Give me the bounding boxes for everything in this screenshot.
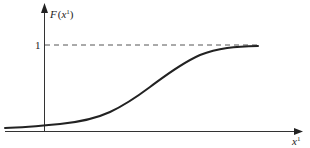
x-axis: [5, 128, 303, 135]
cdf-curve: [5, 46, 258, 128]
y-axis-label: F(x1): [49, 8, 74, 21]
y-axis: [41, 3, 48, 132]
cdf-chart: F(x1) 1 x1: [0, 0, 310, 148]
x-axis-arrow-icon: [294, 128, 303, 135]
y-tick-label-1: 1: [35, 39, 41, 51]
y-axis-arrow-icon: [41, 3, 48, 13]
x-axis-label: x1: [291, 135, 301, 147]
